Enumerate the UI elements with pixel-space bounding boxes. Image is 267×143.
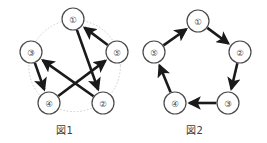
node-4[interactable]: ④ [38,92,60,114]
edge-4-to-5 [159,65,170,92]
node-2[interactable]: ② [229,41,251,63]
edge-4-to-5 [58,61,105,96]
node-3[interactable]: ③ [20,41,42,63]
edge-5-to-1 [85,28,108,45]
node-3[interactable]: ③ [217,92,239,114]
node-label-3: ③ [224,99,232,109]
node-1[interactable]: ① [62,8,84,30]
node-4[interactable]: ④ [164,92,186,114]
node-label-5: ⑤ [150,48,158,58]
node-2[interactable]: ② [92,92,114,114]
node-label-1: ① [69,15,77,25]
figure-1: ①②③④⑤ [20,8,128,114]
node-label-5: ⑤ [113,48,121,58]
edge-2-to-3 [43,60,94,96]
edge-3-to-4 [35,63,44,89]
figure-2: ①②③④⑤ [143,10,251,114]
node-label-3: ③ [27,48,35,58]
diagram-canvas: ①②③④⑤①②③④⑤ [0,0,267,143]
node-label-4: ④ [45,99,53,109]
node-label-2: ② [236,48,244,58]
node-label-2: ② [99,99,107,109]
edge-1-to-2 [207,28,228,44]
node-1[interactable]: ① [187,10,209,32]
edge-2-to-3 [231,63,237,89]
node-5[interactable]: ⑤ [143,41,165,63]
edge-5-to-1 [163,29,186,45]
figures-root: ①②③④⑤①②③④⑤ 図1 図2 [0,0,267,143]
node-5[interactable]: ⑤ [106,41,128,63]
node-label-4: ④ [171,99,179,109]
node-label-1: ① [194,17,202,27]
